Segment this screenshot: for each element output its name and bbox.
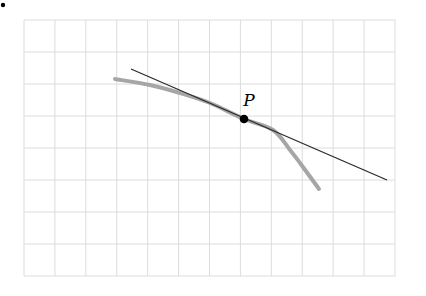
grid [24, 20, 395, 276]
tangent-line-diagram: P [0, 0, 426, 296]
point-p [240, 115, 249, 124]
curve [115, 79, 319, 189]
point-p-label: P [242, 90, 255, 110]
bullet-marker [1, 3, 5, 7]
tangent-line [131, 69, 387, 180]
